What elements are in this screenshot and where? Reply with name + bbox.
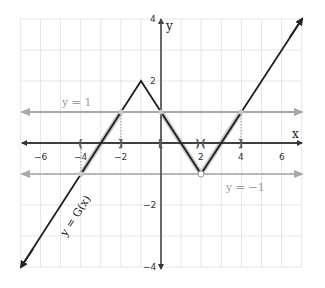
function-graph: ( ] [ ) ( ] −6 −4 −2 2 4 6 4 2 −2 −4 y x… [0,0,325,288]
bracket-close-2: ) [195,137,200,150]
bracket-open-neg4: ( [78,137,83,150]
x-tick: 6 [279,152,285,162]
x-tick: 2 [198,152,204,162]
y-axis-label: y [165,19,173,33]
x-tick: −2 [114,152,127,162]
label-y-equals-1: y = 1 [61,96,91,109]
y-tick: −2 [143,200,156,210]
y-tick: 2 [150,76,156,86]
bracket-close-4: ] [238,137,243,150]
x-tick: −4 [74,152,88,162]
bracket-open-2: ( [201,137,206,150]
open-point [198,171,204,177]
bracket-open-0: [ [158,137,163,150]
y-tick: −4 [143,262,157,272]
x-axis-label: x [292,127,299,141]
curve-label: y = G(x) [57,193,94,239]
label-y-equals-neg1: y = −1 [225,181,265,194]
x-tick-labels: −6 −4 −2 2 4 6 [34,152,285,162]
curve-arrow-end-bottom [21,249,33,267]
bracket-close-neg2: ] [118,137,123,150]
curve-arrow-end-top [290,19,302,37]
y-tick: 4 [150,14,156,24]
x-tick: 4 [238,152,244,162]
x-tick: −6 [34,152,48,162]
